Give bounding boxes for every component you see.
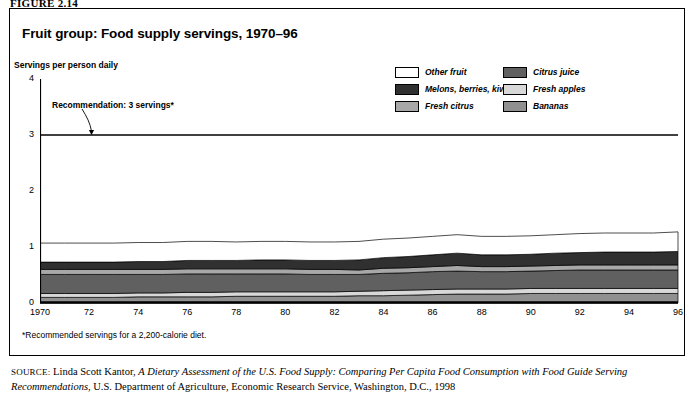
source-author: Linda Scott Kantor, — [53, 366, 136, 377]
x-tick-76: 76 — [182, 307, 192, 317]
legend-label-melons_berries_kiwi: Melons, berries, kiwi — [425, 84, 508, 94]
x-tick-82: 82 — [329, 307, 339, 317]
x-tick-72: 72 — [84, 307, 94, 317]
x-tick-96: 96 — [673, 307, 683, 317]
x-tick-84: 84 — [379, 307, 389, 317]
legend-item-bananas: Bananas — [503, 98, 585, 114]
y-tick-0: 0 — [18, 297, 34, 307]
legend-column-left: Other fruitMelons, berries, kiwiFresh ci… — [395, 64, 508, 115]
x-tick-92: 92 — [575, 307, 585, 317]
legend-item-melons_berries_kiwi: Melons, berries, kiwi — [395, 81, 508, 97]
legend-item-citrus_juice: Citrus juice — [503, 64, 585, 80]
source-label: SOURCE: — [11, 367, 50, 377]
x-tick-78: 78 — [231, 307, 241, 317]
legend-item-fresh_apples: Fresh apples — [503, 81, 585, 97]
legend-item-other_fruit: Other fruit — [395, 64, 508, 80]
legend-label-other_fruit: Other fruit — [425, 67, 467, 77]
x-tick-94: 94 — [624, 307, 634, 317]
source-note: SOURCE: Linda Scott Kantor, A Dietary As… — [11, 364, 683, 394]
legend-item-fresh_citrus: Fresh citrus — [395, 98, 508, 114]
figure-page: FIGURE 2.14 Fruit group: Food supply ser… — [0, 0, 695, 412]
x-tick-1970: 1970 — [30, 307, 50, 317]
x-tick-88: 88 — [477, 307, 487, 317]
legend-label-bananas: Bananas — [533, 101, 568, 111]
legend-column-right: Citrus juiceFresh applesBananas — [503, 64, 585, 115]
annotation-leader-line — [82, 109, 92, 131]
x-tick-90: 90 — [526, 307, 536, 317]
legend-swatch-bananas — [503, 101, 527, 112]
y-tick-4: 4 — [18, 73, 34, 83]
legend-label-fresh_citrus: Fresh citrus — [425, 101, 474, 111]
legend-swatch-citrus_juice — [503, 67, 527, 78]
y-tick-1: 1 — [18, 241, 34, 251]
y-tick-3: 3 — [18, 129, 34, 139]
legend-swatch-fresh_citrus — [395, 101, 419, 112]
legend-label-fresh_apples: Fresh apples — [533, 84, 585, 94]
footnote: *Recommended servings for a 2,200-calori… — [22, 330, 206, 340]
y-axis-title: Servings per person daily — [14, 60, 118, 70]
legend-swatch-other_fruit — [395, 67, 419, 78]
chart-title: Fruit group: Food supply servings, 1970–… — [22, 26, 298, 41]
source-publisher: U.S. Department of Agriculture, Economic… — [93, 381, 455, 392]
legend-label-citrus_juice: Citrus juice — [533, 67, 579, 77]
x-tick-80: 80 — [280, 307, 290, 317]
x-tick-74: 74 — [133, 307, 143, 317]
x-tick-86: 86 — [428, 307, 438, 317]
legend-swatch-fresh_apples — [503, 84, 527, 95]
y-tick-2: 2 — [18, 185, 34, 195]
legend-swatch-melons_berries_kiwi — [395, 84, 419, 95]
